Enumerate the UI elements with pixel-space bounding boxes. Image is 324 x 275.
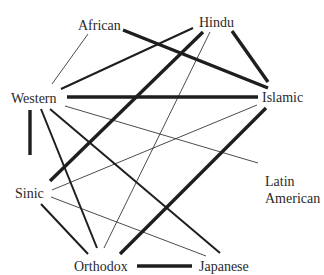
node-japanese: Japanese [199, 259, 249, 274]
node-african: African [78, 18, 121, 33]
node-western: Western [11, 91, 57, 106]
edge-sinic-orthodox [41, 204, 88, 254]
edge-islamic-orthodox [120, 108, 266, 254]
civilization-network-diagram: African Hindu Western Islamic Latin Amer… [0, 0, 324, 275]
node-sinic: Sinic [15, 186, 44, 201]
node-islamic: Islamic [262, 90, 303, 105]
network-canvas: African Hindu Western Islamic Latin Amer… [0, 0, 324, 275]
edge-western-latin [65, 106, 258, 163]
edge-western-orthodox [41, 109, 97, 248]
node-latin-american-line1: Latin [265, 174, 295, 189]
edge-african-western [52, 34, 88, 84]
node-hindu: Hindu [199, 15, 234, 30]
node-latin-american-line2: American [265, 191, 320, 206]
node-orthodox: Orthodox [74, 259, 128, 274]
edge-hindu-western [61, 28, 193, 89]
